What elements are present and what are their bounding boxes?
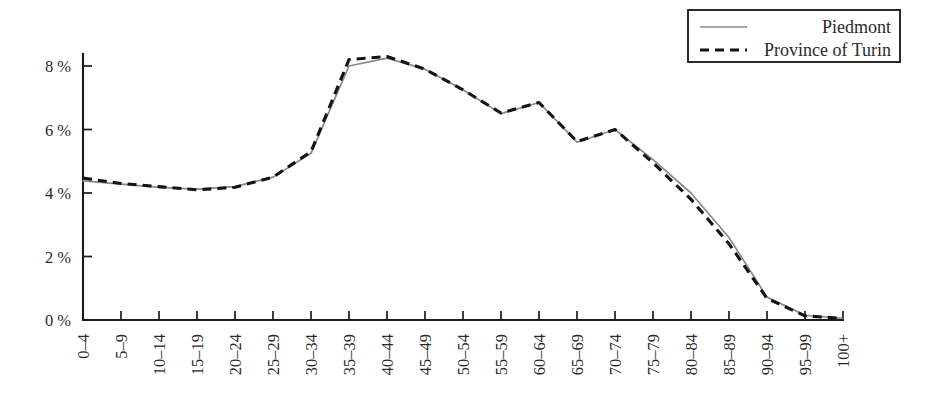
x-tick-label: 80–84 — [682, 334, 701, 375]
x-tick-label: 5–9 — [112, 334, 131, 359]
x-tick-label: 10–14 — [150, 334, 169, 375]
x-tick-label: 15–19 — [188, 334, 207, 375]
x-tick-label: 20–24 — [226, 334, 245, 375]
x-tick-label: 100+ — [834, 334, 853, 368]
x-tick-label: 55–59 — [492, 334, 511, 375]
chart-canvas: 0 %2 %4 %6 %8 % 0–45–910–1415–1920–2425–… — [0, 0, 936, 403]
x-tick-label: 85–89 — [720, 334, 739, 375]
x-tick-label: 25–29 — [264, 334, 283, 375]
x-tick-label: 35–39 — [340, 334, 359, 375]
legend-label-piedmont: Piedmont — [822, 17, 891, 37]
y-tick-label: 0 % — [45, 311, 71, 330]
population-age-distribution-chart: 0 %2 %4 %6 %8 % 0–45–910–1415–1920–2425–… — [0, 0, 936, 403]
legend-label-province-of-turin: Province of Turin — [764, 40, 891, 60]
y-tick-label: 6 % — [45, 121, 71, 140]
x-tick-label: 90–94 — [758, 334, 777, 375]
x-tick-label: 75–79 — [644, 334, 663, 375]
x-tick-label: 30–34 — [302, 334, 321, 375]
x-tick-label: 50–54 — [454, 334, 473, 375]
x-tick-label: 65–69 — [568, 334, 587, 375]
x-tick-label: 60–64 — [530, 334, 549, 375]
y-axis-tick-labels: 0 %2 %4 %6 %8 % — [45, 57, 71, 330]
y-tick-label: 8 % — [45, 57, 71, 76]
x-axis-ticks — [83, 311, 843, 320]
series-line-province-of-turin — [83, 56, 843, 318]
series-line-piedmont — [83, 58, 843, 318]
x-tick-label: 0–4 — [74, 334, 93, 359]
y-tick-label: 2 % — [45, 248, 71, 267]
y-tick-label: 4 % — [45, 184, 71, 203]
axis-lines — [83, 54, 843, 320]
y-axis-ticks — [83, 66, 92, 320]
chart-legend: Piedmont Province of Turin — [688, 10, 900, 62]
x-axis-tick-labels: 0–45–910–1415–1920–2425–2930–3435–3940–4… — [74, 334, 853, 375]
x-tick-label: 95–99 — [796, 334, 815, 375]
x-tick-label: 40–44 — [378, 334, 397, 375]
x-tick-label: 45–49 — [416, 334, 435, 375]
x-tick-label: 70–74 — [606, 334, 625, 375]
